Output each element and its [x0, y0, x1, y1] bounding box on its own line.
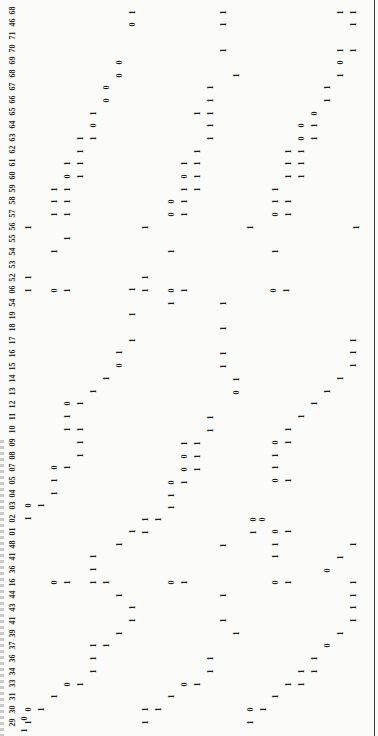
matrix-cell: 1 [193, 147, 202, 155]
matrix-cell: 1 [50, 197, 59, 205]
column-header-label: 05 [8, 473, 17, 487]
column-header-label: 64 [8, 117, 17, 131]
matrix-cell: 0 [269, 286, 278, 294]
matrix-cell: 1 [141, 718, 150, 726]
column-header-label: 06 [8, 283, 17, 297]
matrix-cell: 1 [323, 83, 332, 91]
matrix-cell: 1 [219, 362, 228, 370]
matrix-cell: 0 [323, 566, 332, 574]
matrix-cell: 1 [219, 541, 228, 549]
column-header-label: 71 [8, 28, 17, 42]
matrix-cell: 1 [128, 616, 137, 624]
matrix-cell: 1 [284, 425, 293, 433]
matrix-cell: 1 [180, 439, 189, 447]
column-header-label: 63 [8, 130, 17, 144]
matrix-cell: 1 [219, 616, 228, 624]
matrix-cell: 0 [271, 210, 280, 218]
matrix-cell: 1 [76, 172, 85, 180]
matrix-cell: 1 [349, 20, 358, 28]
column-header-label: 15 [8, 359, 17, 373]
matrix-cell: 1 [284, 172, 293, 180]
matrix-cell: 1 [24, 514, 33, 522]
matrix-cell: 1 [297, 147, 306, 155]
column-header-label: 36 [8, 562, 17, 576]
matrix-cell: 1 [193, 185, 202, 193]
matrix-cell: 1 [219, 46, 228, 54]
matrix-cell: 1 [249, 528, 258, 536]
matrix-cell: 1 [206, 83, 215, 91]
matrix-cell: 1 [284, 210, 293, 218]
matrix-cell: 0 [271, 527, 280, 535]
matrix-cell: 1 [76, 134, 85, 142]
matrix-cell: 1 [284, 197, 293, 205]
matrix-cell: 1 [282, 286, 291, 294]
matrix-cell: 1 [310, 667, 319, 675]
matrix-cell: 1 [154, 705, 163, 713]
matrix-cell: 0 [271, 476, 280, 484]
matrix-cell: 1 [50, 692, 59, 700]
matrix-cell: 1 [63, 286, 72, 294]
column-header-label: 36 [8, 651, 17, 665]
matrix-cell: 1 [349, 578, 358, 586]
matrix-cell: 1 [193, 159, 202, 167]
column-header-label: 66 [8, 92, 17, 106]
rotated-document-page: 2930313334363739414344163641480102030405… [0, 0, 378, 736]
matrix-cell: 1 [89, 654, 98, 662]
matrix-cell: 1 [232, 375, 241, 383]
matrix-cell: 1 [297, 172, 306, 180]
column-header-label: 44 [8, 588, 17, 602]
matrix-cell: 1 [63, 412, 72, 420]
column-header-label: 43 [8, 601, 17, 615]
matrix-cell: 1 [180, 197, 189, 205]
matrix-cell: 1 [352, 223, 361, 231]
matrix-cell: 1 [128, 8, 137, 16]
matrix-cell: 1 [336, 8, 345, 16]
matrix-cell: 1 [89, 552, 98, 560]
matrix-cell: 0 [102, 96, 111, 104]
matrix-cell: 0 [128, 20, 137, 28]
matrix-cell: 1 [115, 629, 124, 637]
matrix-cell: 1 [89, 578, 98, 586]
matrix-cell: 1 [167, 491, 176, 499]
matrix-cell: 0 [115, 58, 124, 66]
matrix-cell: 1 [206, 426, 215, 434]
column-header-label: 57 [8, 206, 17, 220]
matrix-cell: 1 [349, 591, 358, 599]
matrix-cell: 0 [63, 399, 72, 407]
matrix-cell: 1 [50, 210, 59, 218]
matrix-cell: 1 [297, 159, 306, 167]
matrix-cell: 1 [271, 552, 280, 560]
matrix-cell: 1 [284, 159, 293, 167]
matrix-cell: 0 [63, 680, 72, 688]
matrix-cell: 1 [24, 718, 33, 726]
column-header-label: 29 [8, 715, 17, 729]
matrix-cell: 1 [271, 451, 280, 459]
column-header-label: 52 [8, 270, 17, 284]
column-header-label: 04 [8, 486, 17, 500]
matrix-cell: 1 [167, 692, 176, 700]
matrix-cell: 1 [89, 565, 98, 573]
matrix-cell: 1 [141, 223, 150, 231]
matrix-cell: 1 [232, 71, 241, 79]
matrix-cell: 1 [349, 616, 358, 624]
matrix-cell: 1 [63, 578, 72, 586]
matrix-cell: 1 [50, 489, 59, 497]
matrix-cell: 1 [180, 210, 189, 218]
column-header-label: 61 [8, 156, 17, 170]
matrix-cell: 1 [336, 553, 345, 561]
column-header-label: 54 [8, 245, 17, 259]
matrix-cell: 0 [310, 109, 319, 117]
matrix-cell: 1 [102, 641, 111, 649]
matrix-cell: 0 [50, 286, 59, 294]
matrix-cell: 1 [206, 109, 215, 117]
matrix-cell: 1 [24, 286, 33, 294]
matrix-cell: 1 [89, 641, 98, 649]
matrix-cell: 1 [50, 247, 59, 255]
matrix-cell: 1 [37, 501, 46, 509]
matrix-cell: 1 [193, 109, 202, 117]
column-header-label: 67 [8, 79, 17, 93]
matrix-cell: 0 [167, 578, 176, 586]
matrix-cell: 1 [102, 374, 111, 382]
matrix-cell: 0 [271, 578, 280, 586]
column-header-label: 12 [8, 397, 17, 411]
